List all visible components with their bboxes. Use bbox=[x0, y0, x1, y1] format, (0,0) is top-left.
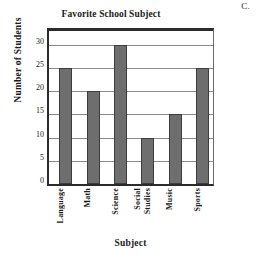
y-tick-label: 25 bbox=[26, 61, 44, 69]
y-tick-label: 20 bbox=[26, 84, 44, 92]
bar-sports[interactable] bbox=[196, 68, 209, 184]
y-axis-title: Number of Students bbox=[13, 0, 23, 120]
problem-letter-label: C. bbox=[241, 1, 250, 11]
plot-area bbox=[47, 28, 214, 186]
bar-slot bbox=[49, 31, 76, 184]
bar-science[interactable] bbox=[114, 45, 127, 184]
x-category-label-line: Social bbox=[133, 188, 142, 210]
y-tick-label: 10 bbox=[26, 131, 44, 139]
bar-slot bbox=[158, 31, 185, 184]
x-axis-title: Subject bbox=[47, 238, 214, 248]
x-category-label-language: Language bbox=[47, 188, 74, 236]
y-axis-tick-labels: 051015202530 bbox=[26, 28, 44, 186]
x-category-label-math: Math bbox=[74, 188, 101, 236]
x-category-label-science: Science bbox=[102, 188, 129, 236]
bar-series bbox=[49, 31, 213, 184]
y-tick-label: 5 bbox=[26, 154, 44, 162]
bar-slot bbox=[104, 31, 131, 184]
bar-slot bbox=[186, 31, 213, 184]
x-category-label-line: Sports bbox=[193, 188, 202, 211]
y-tick-label: 15 bbox=[26, 107, 44, 115]
bar-slot bbox=[76, 31, 103, 184]
gridline-0 bbox=[49, 184, 213, 185]
x-category-label-social-studies: SocialStudies bbox=[129, 188, 156, 236]
bar-social-studies[interactable] bbox=[141, 138, 154, 184]
x-category-label-line: Math bbox=[83, 188, 92, 207]
bar-math[interactable] bbox=[87, 91, 100, 184]
y-tick-label: 0 bbox=[26, 177, 44, 185]
x-axis-category-labels: LanguageMathScienceSocialStudiesMusicSpo… bbox=[47, 188, 214, 236]
bar-slot bbox=[131, 31, 158, 184]
x-category-label-music: Music bbox=[156, 188, 183, 236]
x-category-label-sports: Sports bbox=[184, 188, 211, 236]
x-category-label-line: Science bbox=[111, 188, 120, 215]
y-tick-label: 30 bbox=[26, 38, 44, 46]
bar-music[interactable] bbox=[169, 114, 182, 184]
x-category-label-line: Studies bbox=[143, 188, 152, 214]
x-category-label-line: Language bbox=[56, 188, 65, 223]
x-category-label-line: Music bbox=[165, 188, 174, 210]
bar-language[interactable] bbox=[59, 68, 72, 184]
chart-title: Favorite School Subject bbox=[0, 9, 222, 19]
